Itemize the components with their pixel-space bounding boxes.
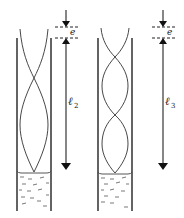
tube-2-water xyxy=(19,177,49,206)
tube-3-end-correction-label: e xyxy=(167,27,172,37)
tube-3-dimension: e ℓ 3 xyxy=(152,10,175,170)
tube-3-length-label: ℓ xyxy=(165,95,170,108)
arrow-up-icon xyxy=(62,38,70,44)
arrow-up-icon xyxy=(159,38,167,44)
arrow-down-icon xyxy=(159,21,167,27)
tube-2-end-correction-label: e xyxy=(70,27,75,37)
tube-3-water xyxy=(101,177,129,207)
arrow-down-icon xyxy=(62,21,70,27)
tube-2-group: e ℓ 2 xyxy=(17,10,78,211)
tube-2-dimension: e ℓ 2 xyxy=(55,10,78,170)
resonance-tube-diagram: e ℓ 2 xyxy=(0,0,184,218)
tube-3-group: e ℓ 3 xyxy=(98,10,175,211)
arrow-down-icon xyxy=(158,163,168,170)
tube-2-length-label: ℓ xyxy=(68,95,73,108)
arrow-down-icon xyxy=(61,163,71,170)
tube-2-length-subscript: 2 xyxy=(74,102,78,110)
tube-3-length-subscript: 3 xyxy=(171,102,175,110)
